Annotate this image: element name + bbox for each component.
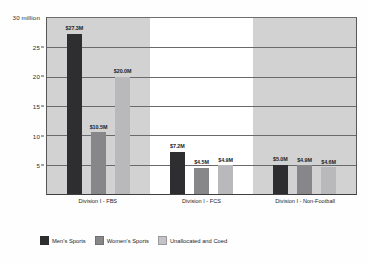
bar-value-label-1-2: $4.9M [218,157,233,163]
y-axis: 30 million 25 20 15 10 5 [0,17,44,195]
y-tick-label-5: 5 [36,162,40,169]
bar-2-2 [321,167,336,194]
bar-value-label-1-0: $7.2M [170,143,185,149]
legend-label-womens-sports: Women's Sports [107,238,149,244]
bar-value-label-0-2: $20.0M [114,68,132,74]
legend-swatch-icon-womens-sports [95,236,104,245]
y-tick-mark-15 [41,106,44,107]
y-tick-mark-10 [41,135,44,136]
bar-0-2 [115,77,130,194]
y-tick-label-25: 25 [33,43,40,50]
x-axis-labels: Division I - FBS Division I - FCS Divisi… [46,198,357,212]
category-label-1: Division I - FCS [182,198,221,204]
y-tick-mark-20 [41,76,44,77]
legend-item-mens-sports: Men's Sports [40,236,86,245]
bar-value-label-0-1: $10.5M [90,124,108,130]
bar-1-0 [170,152,185,194]
bar-value-label-2-1: $4.9M [297,157,312,163]
plot-area: $27.3M$10.5M$20.0M$7.2M$4.5M$4.9M$5.0M$4… [46,17,357,195]
legend-swatch-icon-unallocated-coed [158,236,167,245]
bar-value-label-1-1: $4.5M [194,159,209,165]
y-tick-label-10: 10 [33,132,40,139]
bar-2-1 [297,165,312,194]
bar-value-label-2-2: $4.6M [321,159,336,165]
bar-0-1 [91,132,106,194]
legend-label-unallocated-coed: Unallocated and Coed [170,238,227,244]
legend-swatch-icon-mens-sports [40,236,49,245]
bar-1-1 [194,168,209,194]
y-tick-label-15: 15 [33,103,40,110]
legend-label-mens-sports: Men's Sports [52,238,86,244]
legend-item-unallocated-coed: Unallocated and Coed [158,236,227,245]
category-label-0: Division I - FBS [79,198,118,204]
bar-1-2 [218,165,233,194]
bar-0-0 [67,34,82,194]
y-tick-mark-25 [41,46,44,47]
y-tick-mark-5 [41,165,44,166]
bar-value-label-0-0: $27.3M [66,25,84,31]
category-label-2: Division I - Non-Football [275,198,335,204]
bar-2-0 [273,165,288,194]
bar-value-label-2-0: $5.0M [273,156,288,162]
bars-layer: $27.3M$10.5M$20.0M$7.2M$4.5M$4.9M$5.0M$4… [47,18,356,194]
bar-chart: 30 million 25 20 15 10 5 $27.3M$10.5M$20… [0,0,368,265]
legend: Men's Sports Women's Sports Unallocated … [40,236,227,245]
y-tick-label-30: 30 million [13,14,40,21]
legend-item-womens-sports: Women's Sports [95,236,149,245]
y-tick-label-20: 20 [33,73,40,80]
